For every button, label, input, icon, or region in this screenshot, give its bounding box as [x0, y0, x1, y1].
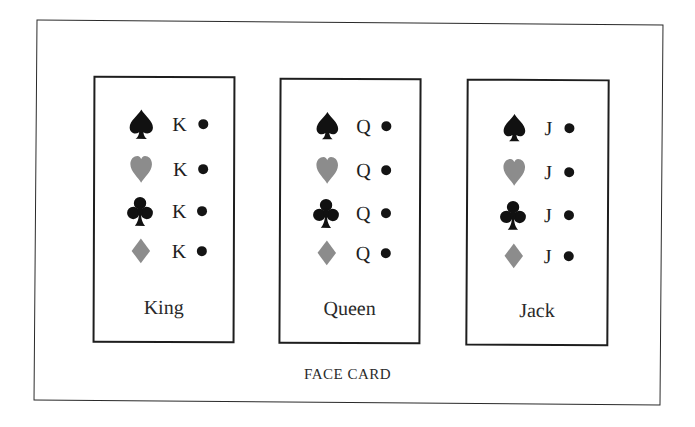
bullet-dot: [381, 208, 391, 218]
rank-label: Q: [356, 114, 371, 138]
bullet-dot: [381, 165, 391, 175]
figure-caption: FACE CARD: [0, 366, 695, 383]
spade-icon: [313, 110, 341, 142]
heart-icon: [500, 156, 528, 188]
card-row-heart: Q: [281, 154, 419, 187]
bullet-dot: [198, 119, 208, 129]
rank-label: Q: [356, 201, 371, 225]
bullet-dot: [564, 167, 574, 177]
bullet-dot: [564, 210, 574, 220]
rank-label: K: [172, 239, 187, 263]
card-title: King: [95, 295, 233, 319]
rank-label: Q: [356, 158, 371, 182]
diamond-icon: [313, 237, 341, 269]
bullet-dot: [197, 246, 207, 256]
card-row-heart: K: [95, 153, 233, 185]
rank-label: K: [172, 112, 187, 136]
card-row-club: K: [95, 195, 233, 227]
rank-label: K: [173, 157, 188, 181]
card-row-club: J: [468, 199, 607, 232]
card-jack: J J J J Jack: [465, 79, 609, 347]
card-title: Queen: [281, 296, 419, 321]
bullet-dot: [381, 248, 391, 258]
card-row-diamond: J: [468, 240, 607, 273]
diamond-icon: [500, 240, 528, 272]
bullet-dot: [381, 121, 391, 131]
spade-icon: [500, 112, 528, 144]
card-row-spade: K: [95, 108, 233, 140]
club-icon: [126, 195, 154, 227]
club-icon: [499, 199, 527, 231]
rank-label: Q: [356, 241, 371, 265]
card-title: Jack: [467, 298, 606, 323]
card-row-spade: J: [468, 112, 607, 145]
bullet-dot: [198, 164, 208, 174]
rank-label: K: [172, 199, 187, 223]
card-row-diamond: Q: [281, 237, 419, 270]
card-row-diamond: K: [95, 235, 233, 267]
card-row-heart: J: [468, 156, 607, 189]
rank-label: J: [544, 203, 552, 227]
card-row-spade: Q: [281, 110, 419, 143]
bullet-dot: [564, 123, 574, 133]
rank-label: J: [544, 116, 552, 140]
bullet-dot: [564, 251, 574, 261]
card-king: K K K K King: [93, 76, 236, 343]
card-queen: Q Q Q Q Queen: [278, 78, 421, 345]
club-icon: [312, 197, 340, 229]
diamond-icon: [127, 235, 155, 267]
heart-icon: [313, 154, 341, 186]
rank-label: J: [544, 244, 552, 268]
card-row-club: Q: [281, 197, 419, 230]
spade-icon: [127, 108, 155, 140]
heart-icon: [127, 153, 155, 185]
rank-label: J: [544, 160, 552, 184]
bullet-dot: [197, 206, 207, 216]
